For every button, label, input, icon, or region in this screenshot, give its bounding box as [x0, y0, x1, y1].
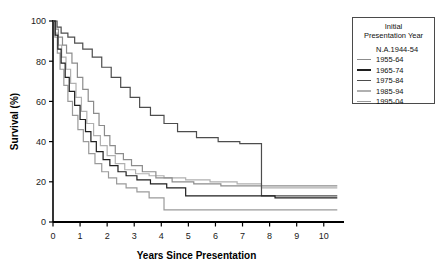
legend-line-swatch	[356, 55, 372, 65]
survival-curve	[53, 21, 337, 186]
legend-item-label: N.A.1944-54	[376, 45, 418, 54]
legend-item: 1985-94	[356, 86, 431, 97]
y-tick-label: 40	[36, 137, 46, 147]
y-tick-label: 100	[31, 16, 46, 26]
y-axis-title: Survival (%)	[9, 93, 20, 150]
x-tick-label: 5	[186, 231, 191, 241]
x-tick-label: 1	[78, 231, 83, 241]
x-tick-label: 9	[294, 231, 299, 241]
legend-item-label: 1995-04	[376, 97, 404, 106]
x-tick-label: 10	[319, 231, 329, 241]
survival-curve	[53, 21, 337, 210]
survival-curve	[53, 21, 337, 198]
chart-root: 020406080100012345678910Years Since Pres…	[0, 0, 444, 278]
legend-item: 1955-64	[356, 55, 431, 66]
legend-item: 1975-84	[356, 76, 431, 87]
x-tick-label: 2	[105, 231, 110, 241]
legend-item: 1965-74	[356, 65, 431, 76]
x-axis-title: Years Since Presentation	[137, 250, 257, 261]
legend-line-swatch	[356, 86, 372, 96]
x-tick-label: 0	[50, 231, 55, 241]
x-tick-label: 3	[132, 231, 137, 241]
x-tick-label: 7	[240, 231, 245, 241]
legend-entries: N.A.1944-541955-641965-741975-841985-941…	[356, 44, 431, 107]
legend-item-label: 1955-64	[376, 55, 404, 64]
y-tick-label: 60	[36, 97, 46, 107]
legend-line-swatch	[356, 65, 372, 75]
survival-curve	[53, 21, 337, 188]
y-tick-label: 20	[36, 177, 46, 187]
y-tick-label: 0	[41, 217, 46, 227]
legend-line-swatch	[356, 76, 372, 86]
legend-line-swatch	[356, 97, 372, 107]
y-tick-label: 80	[36, 57, 46, 67]
legend-item: 1995-04	[356, 97, 431, 108]
x-tick-label: 4	[159, 231, 164, 241]
legend-title-line1: Initial	[356, 22, 431, 31]
legend-item-label: 1985-94	[376, 87, 404, 96]
x-tick-label: 8	[267, 231, 272, 241]
legend-item: N.A.1944-54	[356, 44, 431, 55]
x-tick-label: 6	[213, 231, 218, 241]
chart-legend: Initial Presentation Year N.A.1944-54195…	[352, 17, 435, 104]
legend-title: Initial Presentation Year	[356, 22, 431, 40]
legend-item-label: 1975-84	[376, 76, 404, 85]
legend-title-line2: Presentation Year	[356, 31, 431, 40]
legend-item-label: 1965-74	[376, 66, 404, 75]
survival-curve	[53, 21, 337, 196]
